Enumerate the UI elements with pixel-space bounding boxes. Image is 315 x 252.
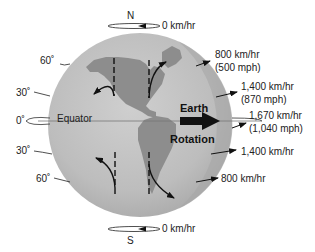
speed-eq-kmh: 1,670 km/hr	[249, 110, 302, 122]
latitude-0: 0˚	[16, 115, 25, 127]
speed-60n-kmh: 800 km/hr	[215, 49, 259, 61]
north-pole-speed: 0 km/hr	[162, 20, 195, 32]
speed-30s-kmh: 1,400 km/hr	[241, 146, 294, 158]
speed-60s-kmh: 800 km/hr	[221, 173, 265, 185]
north-pole-rotation	[108, 24, 160, 29]
equator-label: Equator	[57, 113, 92, 125]
earth-rotation-label-top: Earth	[180, 102, 208, 114]
north-pole-label: N	[127, 10, 134, 22]
south-pole-label: S	[127, 235, 134, 247]
latitude-30s: 30˚	[16, 145, 30, 157]
latitude-60n: 60˚	[40, 55, 54, 67]
latitude-60s: 60˚	[36, 173, 50, 185]
speed-30n-kmh: 1,400 km/hr	[241, 81, 294, 93]
south-pole-rotation	[108, 227, 160, 232]
south-pole-speed: 0 km/hr	[162, 223, 195, 235]
latitude-30n: 30˚	[16, 87, 30, 99]
earth-rotation-label-bottom: Rotation	[170, 133, 215, 145]
speed-30n-mph: (870 mph)	[241, 94, 287, 106]
speed-60n-mph: (500 mph)	[215, 62, 261, 74]
speed-eq-mph: (1,040 mph)	[249, 123, 303, 135]
